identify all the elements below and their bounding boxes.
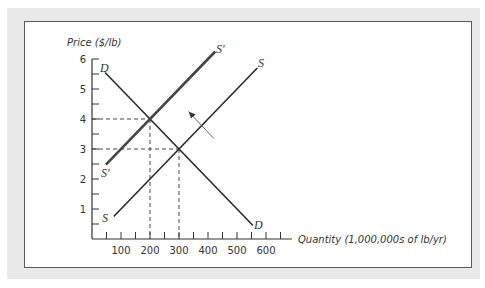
x-tick-label: 100 [111,245,130,256]
supply-demand-chart: 123456100200300400500600 Price ($/lb) Qu… [0,0,485,288]
y-tick-label: 4 [80,114,86,125]
demand-label-bottom: D [253,218,263,232]
demand-label-top: D [99,61,109,75]
x-tick-label: 400 [198,245,217,256]
curve-s [114,68,258,217]
y-tick-label: 6 [80,54,86,65]
new-supply-label-top: S' [216,42,225,56]
x-tick-label: 300 [169,245,188,256]
curve-sprime [106,52,215,165]
supply-label-top: S [258,56,264,70]
supply-label-bottom: S [102,211,108,225]
x-tick-label: 200 [140,245,159,256]
y-tick-label: 3 [80,144,86,155]
y-tick-label: 5 [80,84,86,95]
x-tick-label: 500 [227,245,246,256]
x-axis-label: Quantity (1,000,000s of lb/yr) [298,234,447,245]
new-supply-label-bottom: S' [101,166,110,180]
y-tick-label: 1 [80,204,86,215]
y-tick-label: 2 [80,174,86,185]
x-tick-label: 600 [256,245,275,256]
curves [105,52,257,226]
y-axis-label: Price ($/lb) [67,37,121,48]
